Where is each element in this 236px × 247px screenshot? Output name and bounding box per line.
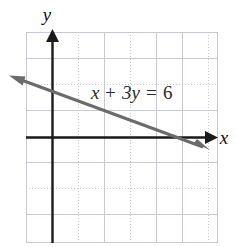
coordinate-plane-svg: y x x + 3y = 6 [0, 0, 236, 247]
x-axis-label: x [219, 127, 229, 148]
y-axis-label: y [41, 4, 52, 25]
equation-term-x: x [90, 82, 100, 103]
equation-term-3y: 3y [121, 82, 141, 103]
equation-value: 6 [163, 82, 173, 103]
equation-plus-sign: + [105, 82, 116, 103]
equation-equals-sign: = [146, 82, 157, 103]
equation-line-arrowhead-left [9, 76, 26, 86]
graph-figure: y x x + 3y = 6 [0, 0, 236, 247]
